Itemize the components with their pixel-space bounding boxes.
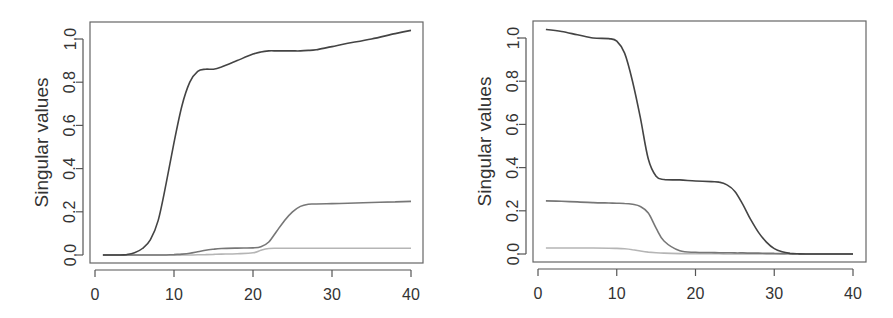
y-tick-label: 0.6 xyxy=(505,113,522,135)
right-chart-panel: 0.00.20.40.60.81.0010203040Singular valu… xyxy=(474,21,866,302)
y-tick-label: 0.0 xyxy=(505,243,522,265)
chart-canvas: 0.00.20.40.60.81.0010203040Singular valu… xyxy=(0,0,893,318)
x-tick-label: 40 xyxy=(402,286,420,303)
x-tick-label: 20 xyxy=(687,285,705,302)
series-line-1 xyxy=(546,29,853,254)
series-line-2 xyxy=(546,201,853,254)
x-tick-label: 30 xyxy=(323,286,341,303)
y-tick-label: 0.2 xyxy=(505,200,522,222)
x-tick-label: 30 xyxy=(765,285,783,302)
x-tick-label: 10 xyxy=(608,285,626,302)
x-tick-label: 10 xyxy=(165,286,183,303)
y-tick-label: 0.0 xyxy=(62,244,79,266)
y-axis-label: Singular values xyxy=(31,78,52,208)
y-axis: 0.00.20.40.60.81.0 xyxy=(505,27,527,265)
x-axis: 010203040 xyxy=(91,270,420,303)
series-line-2 xyxy=(103,201,411,255)
series-line-3 xyxy=(103,248,411,255)
x-tick-label: 40 xyxy=(844,285,862,302)
y-tick-label: 0.4 xyxy=(62,157,79,179)
y-tick-label: 0.8 xyxy=(62,71,79,93)
y-tick-label: 1.0 xyxy=(505,27,522,49)
x-tick-label: 20 xyxy=(244,286,262,303)
x-tick-label: 0 xyxy=(534,285,543,302)
y-axis-label: Singular values xyxy=(474,77,495,207)
plot-frame xyxy=(533,21,866,262)
x-axis: 010203040 xyxy=(534,269,862,302)
y-tick-label: 1.0 xyxy=(62,28,79,50)
y-tick-label: 0.2 xyxy=(62,201,79,223)
plot-frame xyxy=(90,22,423,263)
y-axis: 0.00.20.40.60.81.0 xyxy=(62,28,84,266)
series-line-1 xyxy=(103,30,411,255)
x-tick-label: 0 xyxy=(91,286,100,303)
y-tick-label: 0.4 xyxy=(505,156,522,178)
y-tick-label: 0.6 xyxy=(62,114,79,136)
y-tick-label: 0.8 xyxy=(505,70,522,92)
left-chart-panel: 0.00.20.40.60.81.0010203040Singular valu… xyxy=(31,22,423,303)
